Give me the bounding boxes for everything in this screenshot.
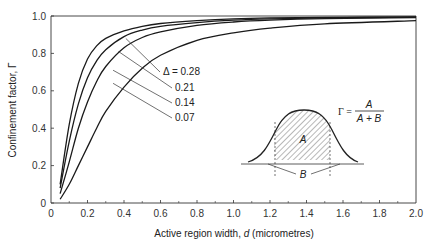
x-tick-label: 1.6	[336, 208, 350, 219]
plot-frame	[51, 16, 416, 203]
x-tick-label: 1.0	[227, 208, 241, 219]
y-tick-label: 0.6	[32, 85, 46, 96]
svg-text:A: A	[365, 99, 373, 110]
confinement-formula: Γ = A A + B	[338, 99, 384, 124]
b-leader-left	[268, 164, 296, 174]
y-tick-label: 0.8	[32, 48, 46, 59]
confinement-factor-chart: 00.20.40.60.81.01.21.41.61.82.000.20.40.…	[0, 0, 437, 250]
curve	[60, 17, 416, 188]
x-axis-label: Active region width, d (micrometres)	[154, 228, 314, 239]
inset-mode-profile: A B	[241, 110, 364, 180]
y-tick-label: 0.2	[32, 160, 46, 171]
y-tick-label: 0	[40, 198, 46, 209]
curve-labels: Δ = 0.280.210.140.07	[113, 38, 200, 123]
x-tick-label: 0.4	[117, 208, 131, 219]
curve-label: 0.21	[175, 82, 195, 93]
curve-label: Δ = 0.28	[163, 66, 200, 77]
svg-text:A + B: A + B	[356, 113, 382, 124]
x-tick-label: 0.2	[81, 208, 95, 219]
y-tick-label: 1.0	[32, 11, 46, 22]
x-tick-label: 1.2	[263, 208, 277, 219]
curve-label: 0.07	[175, 112, 195, 123]
curve	[60, 21, 416, 200]
region-b-label: B	[300, 169, 307, 180]
svg-text:Γ =: Γ =	[338, 106, 352, 117]
curve-label: 0.14	[175, 97, 195, 108]
x-tick-label: 0.6	[154, 208, 168, 219]
x-tick-label: 1.8	[373, 208, 387, 219]
x-tick-label: 2.0	[409, 208, 423, 219]
leader-line	[113, 83, 172, 118]
x-tick-label: 0.8	[190, 208, 204, 219]
x-tick-label: 0	[48, 208, 54, 219]
y-tick-label: 0.4	[32, 123, 46, 134]
curves	[60, 17, 416, 199]
b-leader-right	[311, 164, 340, 174]
region-a-label: A	[299, 134, 307, 145]
x-tick-label: 1.4	[300, 208, 314, 219]
y-axis-label: Confinement factor, Γ	[7, 62, 18, 157]
